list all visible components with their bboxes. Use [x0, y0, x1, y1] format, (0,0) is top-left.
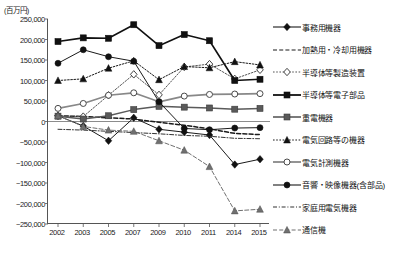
- legend-label: 半導体等製造装置: [302, 67, 364, 78]
- chart-container: (百万円) 250,000200,000150,000100,00050,000…: [0, 0, 405, 261]
- legend-marker-icon: [272, 178, 302, 192]
- legend-marker-icon: [272, 65, 302, 79]
- legend-label: 事務用機器: [302, 22, 341, 33]
- data-point-square-grey: [207, 105, 213, 111]
- legend-item-9[interactable]: 家庭用電気機器: [272, 196, 405, 219]
- data-point-circle-filled: [156, 99, 162, 105]
- y-axis-tick: 250,000: [1, 15, 45, 24]
- legend-item-6[interactable]: 電気回路等の機器: [272, 129, 405, 152]
- data-point-circle-filled: [80, 47, 86, 53]
- data-point-triangle-filled: [257, 61, 264, 68]
- data-point-circle-open: [106, 92, 112, 98]
- data-point-circle-filled: [257, 125, 263, 131]
- data-point-circle-filled: [232, 125, 238, 131]
- data-point-square-filled: [106, 35, 112, 41]
- data-point-circle-open: [207, 91, 213, 97]
- x-axis-tick: 2009: [150, 228, 166, 237]
- data-point-square-filled: [284, 92, 290, 98]
- data-point-circle-filled: [181, 125, 187, 131]
- legend-label: 通信機: [302, 224, 325, 235]
- legend-item-4[interactable]: 半導体等電子部品: [272, 84, 405, 107]
- legend-marker-icon: [272, 43, 302, 57]
- data-point-square-grey: [131, 107, 137, 113]
- legend-label: 電気回路等の機器: [302, 134, 364, 145]
- data-point-diamond-open: [130, 71, 137, 78]
- legend-item-1[interactable]: 事務用機器: [272, 16, 405, 39]
- y-axis-tick: −200,000: [1, 199, 45, 208]
- data-point-circle-filled: [284, 182, 290, 188]
- data-point-triangle-grey: [206, 163, 213, 170]
- x-axis-tick-labels: 200220032005200720092010201120142015: [47, 228, 269, 242]
- x-axis-tick: 2002: [49, 228, 65, 237]
- legend-marker-icon: [272, 20, 302, 34]
- data-point-square-filled: [257, 76, 263, 82]
- legend-label: 家庭用電気機器: [302, 202, 357, 213]
- x-axis-tick: 2010: [176, 228, 192, 237]
- y-axis-tick: 100,000: [1, 76, 45, 85]
- data-point-square-grey: [106, 113, 112, 119]
- data-point-triangle-grey: [181, 147, 188, 154]
- legend-item-10[interactable]: 通信機: [272, 219, 405, 242]
- y-axis-tick: 200,000: [1, 35, 45, 44]
- data-point-diamond-filled: [257, 156, 264, 163]
- data-point-circle-open: [284, 159, 290, 165]
- data-point-circle-filled: [55, 60, 61, 66]
- data-point-circle-open: [80, 100, 86, 106]
- data-point-square-filled: [131, 22, 137, 28]
- legend-label: 電気計測機器: [302, 157, 349, 168]
- y-axis-tick: 0: [1, 117, 45, 126]
- y-axis-tick: −250,000: [1, 220, 45, 229]
- data-point-triangle-grey: [156, 137, 163, 144]
- y-axis-tick: 50,000: [1, 97, 45, 106]
- data-point-square-filled: [181, 32, 187, 38]
- data-point-square-filled: [80, 35, 86, 41]
- chart-legend: 事務用機器加熱用・冷却用機器半導体等製造装置半導体等電子部品重電機器電気回路等の…: [272, 16, 405, 241]
- legend-marker-icon: [272, 200, 302, 214]
- legend-item-5[interactable]: 重電機器: [272, 106, 405, 129]
- x-axis-tick: 2003: [75, 228, 91, 237]
- data-point-circle-filled: [131, 58, 137, 64]
- legend-label: 重電機器: [302, 112, 333, 123]
- x-axis-tick: 2015: [251, 228, 267, 237]
- y-axis-tick: −100,000: [1, 158, 45, 167]
- data-point-square-grey: [80, 116, 86, 122]
- y-axis-tick: −50,000: [1, 138, 45, 147]
- x-axis-tick: 2014: [226, 228, 242, 237]
- series-line: [55, 103, 263, 122]
- y-axis-tick: 150,000: [1, 56, 45, 65]
- legend-item-8[interactable]: 音響・映像機器(含部品): [272, 174, 405, 197]
- data-point-square-filled: [55, 39, 61, 45]
- data-point-circle-filled: [106, 54, 112, 60]
- y-axis-tick: −150,000: [1, 179, 45, 188]
- data-point-diamond-open: [284, 69, 291, 76]
- series-line: [55, 22, 263, 84]
- data-point-square-grey: [257, 105, 263, 111]
- x-axis-tick: 2005: [100, 228, 116, 237]
- data-point-square-filled: [156, 43, 162, 49]
- data-point-triangle-filled: [156, 76, 163, 83]
- legend-label: 加熱用・冷却用機器: [302, 44, 372, 55]
- data-point-square-filled: [207, 38, 213, 44]
- data-point-square-grey: [284, 114, 290, 120]
- x-axis-tick: 2011: [201, 228, 216, 237]
- legend-marker-icon: [272, 155, 302, 169]
- data-point-circle-filled: [207, 127, 213, 133]
- legend-marker-icon: [272, 110, 302, 124]
- data-point-circle-open: [257, 91, 263, 97]
- data-point-square-filled: [232, 78, 238, 84]
- data-point-triangle-filled: [55, 77, 62, 84]
- x-axis-tick: 2007: [125, 228, 141, 237]
- legend-item-7[interactable]: 電気計測機器: [272, 151, 405, 174]
- y-axis-unit-label: (百万円): [4, 4, 29, 15]
- data-point-diamond-filled: [156, 126, 163, 133]
- data-point-diamond-filled: [284, 24, 291, 31]
- legend-item-3[interactable]: 半導体等製造装置: [272, 61, 405, 84]
- data-point-triangle-grey: [231, 207, 238, 214]
- data-point-triangle-filled: [231, 58, 238, 65]
- data-point-square-grey: [181, 104, 187, 110]
- y-axis-tick-labels: 250,000200,000150,000100,00050,0000−50,0…: [0, 19, 45, 224]
- legend-item-2[interactable]: 加熱用・冷却用機器: [272, 39, 405, 62]
- data-point-circle-open: [131, 90, 137, 96]
- legend-label: 音響・映像機器(含部品): [302, 179, 385, 190]
- data-point-circle-open: [181, 93, 187, 99]
